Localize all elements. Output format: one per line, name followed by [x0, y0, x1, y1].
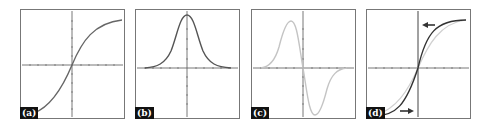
panel-label: (a): [20, 107, 38, 119]
second-derivative-plot: [251, 9, 356, 119]
sigmoid-plot: [20, 9, 125, 119]
bell-curve-plot: [135, 9, 240, 119]
steepened-sigmoid-plot: [366, 9, 471, 119]
panel-d: (d): [366, 9, 471, 119]
panel-a: (a): [20, 9, 125, 119]
panel-label: (c): [251, 107, 269, 119]
panel-c: (c): [251, 9, 356, 119]
panel-b: (b): [135, 9, 240, 119]
panel-label: (b): [135, 107, 154, 119]
panel-label: (d): [366, 107, 385, 119]
